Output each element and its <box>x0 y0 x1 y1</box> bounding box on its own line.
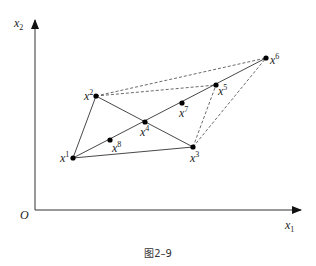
point-x1 <box>70 155 75 160</box>
simplex-diagram <box>0 0 316 266</box>
x-axis-label: x1 <box>285 219 294 234</box>
figure-caption: 图2–9 <box>0 245 316 260</box>
edge-x2-x6 <box>96 58 266 96</box>
edge-x3-x6 <box>193 58 266 147</box>
point-x6 <box>263 55 268 60</box>
label-x4: x4 <box>140 125 149 138</box>
label-x8: x8 <box>112 141 121 154</box>
label-x1: x1 <box>60 151 69 164</box>
label-x2: x2 <box>84 89 93 102</box>
solid-edges <box>73 58 266 158</box>
point-x3 <box>190 144 195 149</box>
origin-label: O <box>20 209 29 221</box>
y-axis-label: x2 <box>14 17 23 32</box>
label-x7: x7 <box>179 106 188 119</box>
label-x3: x3 <box>190 151 199 164</box>
point-x2 <box>93 93 98 98</box>
label-x6: x6 <box>270 53 279 66</box>
edge-x2-x5 <box>96 85 216 96</box>
edge-x1-x6 <box>73 58 266 158</box>
label-x5: x5 <box>218 84 227 97</box>
edge-x1-x2 <box>73 96 96 158</box>
